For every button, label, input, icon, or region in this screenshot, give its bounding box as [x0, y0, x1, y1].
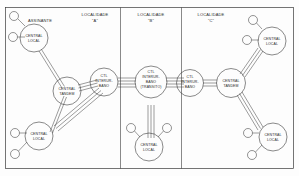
- node-central-local-a-bottom[interactable]: CENTRAL LOCAL: [11, 122, 54, 159]
- node-central-tandem-c[interactable]: CENTRAL TANDEM: [217, 69, 246, 98]
- locality-header-c: LOCALIDADE "C": [198, 12, 225, 23]
- node-central-local-b[interactable]: CENTRAL LOCAL: [127, 124, 172, 162]
- node-label-line2: LOCAL: [266, 42, 278, 46]
- locality-c-line1: LOCALIDADE: [198, 12, 225, 17]
- node-circle[interactable]: [259, 123, 287, 151]
- locality-c-line2: "C": [208, 18, 215, 23]
- subscriber-icon: [11, 129, 20, 138]
- node-label-line1: CENTRAL: [222, 79, 239, 83]
- node-label-line1: CENTRAL: [140, 143, 157, 147]
- node-label-line3: BANO: [185, 85, 195, 89]
- node-label-line3: BANO: [146, 80, 156, 84]
- subscriber-icon: [11, 150, 20, 159]
- node-label-line1: CENTRAL: [30, 132, 47, 136]
- locality-header-b: LOCALIDADE "B": [138, 12, 165, 23]
- subscriber-icon: [249, 16, 258, 25]
- subscriber-icon: [163, 124, 172, 133]
- node-label-line1: CENTRAL: [58, 87, 75, 91]
- node-label-line1: CTL: [101, 74, 108, 78]
- locality-b-line1: LOCALIDADE: [138, 12, 165, 17]
- node-circle[interactable]: [217, 69, 246, 98]
- node-circle[interactable]: [258, 27, 286, 55]
- node-label-line2: LOCAL: [143, 148, 155, 152]
- locality-b-line2: "B": [148, 18, 154, 23]
- node-label-line2: TANDEM: [59, 92, 74, 96]
- subscriber-link: [135, 131, 141, 137]
- node-central-local-c-bottom[interactable]: CENTRAL LOCAL: [244, 123, 288, 160]
- node-circle[interactable]: [135, 133, 163, 161]
- subscriber-link: [158, 131, 164, 137]
- node-label-line2: LOCAL: [267, 138, 279, 142]
- node-label-line2: LOCAL: [33, 137, 45, 141]
- locality-header-a: LOCALIDADE "A": [82, 12, 109, 23]
- subscriber-icon: [9, 33, 18, 42]
- node-label-line2: TANDEM: [223, 84, 238, 88]
- network-topology-diagram: LOCALIDADE "A" LOCALIDADE "B" LOCALIDADE…: [0, 0, 299, 176]
- node-label-line2: INTERUR-: [95, 79, 113, 83]
- subscriber-icon: [127, 124, 136, 133]
- locality-a-line1: LOCALIDADE: [82, 12, 109, 17]
- locality-a-line2: "A": [92, 18, 98, 23]
- node-label-line1: CENTRAL: [263, 37, 280, 41]
- node-label-line2: INTERUR-: [142, 75, 160, 79]
- node-label-line1: CENTRAL: [264, 133, 281, 137]
- assinante-annotation: ASSINANTE: [28, 18, 52, 23]
- node-central-local-c-top[interactable]: CENTRAL LOCAL: [243, 16, 287, 56]
- diagram-canvas: LOCALIDADE "A" LOCALIDADE "B" LOCALIDADE…: [0, 0, 299, 176]
- node-label-line1: CTL: [148, 70, 155, 74]
- node-label-line3: BANO: [99, 84, 109, 88]
- subscriber-link: [19, 142, 28, 151]
- node-label-line1: CENTRAL: [25, 34, 42, 38]
- subscriber-link: [256, 145, 263, 152]
- node-circle[interactable]: [20, 24, 48, 52]
- node-circle[interactable]: [53, 77, 81, 105]
- node-label-line4: (TRÂNSITO): [141, 85, 162, 89]
- node-label-line1: CTL: [187, 75, 194, 79]
- node-circle[interactable]: [25, 122, 53, 150]
- subscriber-icon: [10, 12, 19, 21]
- node-ctl-interurbano-a[interactable]: CTL INTERUR- BANO: [90, 68, 118, 96]
- node-central-tandem-a[interactable]: CENTRAL TANDEM: [53, 77, 81, 105]
- node-ctl-interurbano-c[interactable]: CTL INTERUR- BANO: [177, 70, 204, 97]
- subscriber-icon: [248, 151, 257, 160]
- subscriber-icon: [244, 129, 253, 138]
- subscriber-icon: [243, 36, 252, 45]
- node-ctl-interurbano-b-transito[interactable]: CTL INTERUR- BANO (TRÂNSITO): [135, 66, 167, 98]
- subscriber-link: [257, 23, 263, 29]
- node-label-line2: INTERUR-: [181, 80, 199, 84]
- node-label-line2: LOCAL: [28, 39, 40, 43]
- subscriber-link: [18, 19, 25, 26]
